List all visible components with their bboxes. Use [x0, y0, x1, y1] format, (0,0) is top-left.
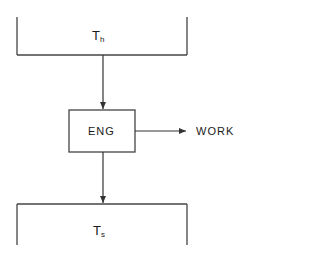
cold-reservoir-label: Ts — [93, 224, 105, 239]
cold-temp-subscript: s — [101, 230, 105, 239]
hot-temp-symbol: T — [92, 28, 100, 43]
engine-label: ENG — [88, 126, 115, 137]
hot-temp-subscript: h — [100, 35, 104, 44]
cold-temp-symbol: T — [93, 223, 101, 238]
hot-reservoir-label: Th — [92, 29, 104, 44]
work-label: WORK — [196, 126, 234, 137]
